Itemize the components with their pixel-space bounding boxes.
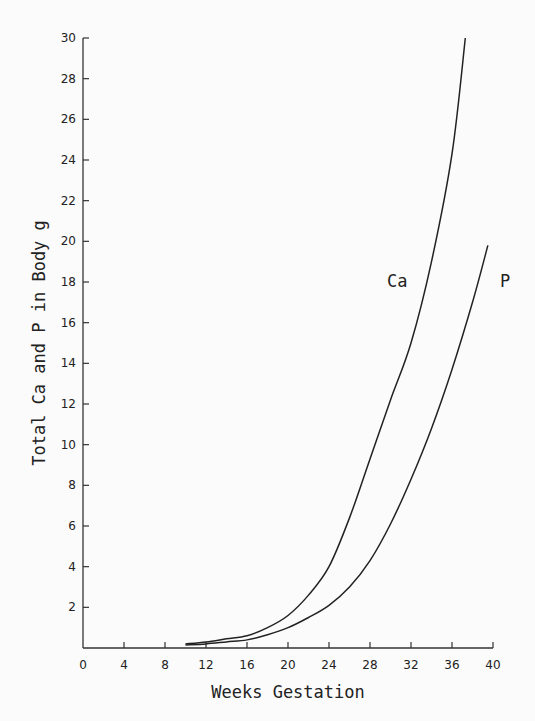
x-tick-label: 4 [120, 658, 128, 672]
x-tick-label: 28 [362, 658, 377, 672]
y-tick-label: 14 [61, 356, 76, 370]
y-tick-label: 24 [61, 153, 76, 167]
y-tick-label: 30 [61, 31, 76, 45]
series-label-ca: Ca [387, 271, 407, 291]
y-tick-label: 16 [61, 316, 76, 330]
x-tick-label: 32 [403, 658, 418, 672]
x-tick-label: 40 [485, 658, 500, 672]
y-tick-label: 8 [68, 478, 76, 492]
line-chart: 24681012141618202224262830 0481216202428… [0, 0, 535, 721]
series-line-ca [186, 38, 466, 644]
y-tick-label: 4 [68, 560, 76, 574]
y-tick-label: 18 [61, 275, 76, 289]
y-tick-label: 6 [68, 519, 76, 533]
series-lines [186, 38, 488, 645]
x-tick-label: 24 [321, 658, 336, 672]
y-tick-label: 20 [61, 234, 76, 248]
x-ticks: 0481216202428323640 [79, 642, 500, 672]
y-ticks: 24681012141618202224262830 [61, 31, 89, 614]
y-axis-title: Total Ca and P in Body g [29, 220, 49, 466]
x-axis-title: Weeks Gestation [211, 682, 365, 702]
y-tick-label: 12 [61, 397, 76, 411]
series-label-p: P [500, 271, 510, 291]
y-tick-label: 28 [61, 72, 76, 86]
x-tick-label: 36 [444, 658, 459, 672]
x-tick-label: 20 [280, 658, 295, 672]
y-tick-label: 26 [61, 112, 76, 126]
y-tick-label: 2 [68, 600, 76, 614]
y-tick-label: 10 [61, 438, 76, 452]
axes [83, 38, 493, 648]
x-tick-label: 16 [239, 658, 254, 672]
y-tick-label: 22 [61, 194, 76, 208]
x-tick-label: 0 [79, 658, 87, 672]
series-line-p [186, 245, 488, 645]
x-tick-label: 12 [198, 658, 213, 672]
x-tick-label: 8 [161, 658, 169, 672]
